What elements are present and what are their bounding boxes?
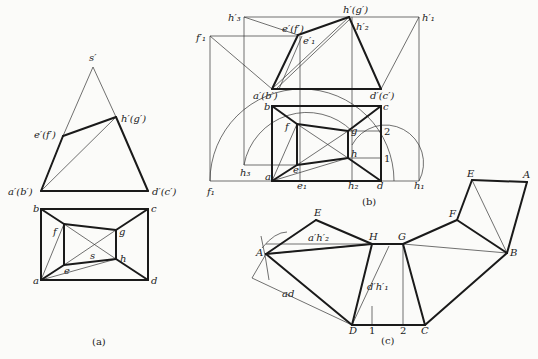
diagram-svg: s′h′(g′)e′(f′)a′(b′)d′(c′)bcfgshead(a) h… bbox=[0, 0, 538, 359]
figure-b-true-length-construction: h′₃h′(g′)h′₁f′₁e′(f′)e′₁h′₂a′(b′)d′(c′)b… bbox=[195, 4, 435, 207]
edge-line bbox=[41, 136, 63, 191]
construction-line bbox=[403, 244, 507, 253]
point-label: a bbox=[33, 275, 39, 286]
construction-line bbox=[210, 36, 272, 89]
descriptive-geometry-diagram: s′h′(g′)e′(f′)a′(b′)d′(c′)bcfgshead(a) h… bbox=[0, 0, 538, 359]
point-label: A bbox=[255, 247, 263, 258]
point-label: s′ bbox=[89, 52, 97, 63]
edge-line bbox=[425, 253, 507, 325]
point-label: d′(c′) bbox=[152, 186, 176, 197]
figure-caption: (a) bbox=[92, 336, 106, 347]
edge-line bbox=[63, 117, 116, 136]
point-label: g bbox=[119, 226, 125, 237]
point-label: a′(b′) bbox=[253, 90, 278, 101]
point-label: ad bbox=[282, 288, 294, 299]
height-mark-number: 2 bbox=[400, 325, 406, 336]
point-label: e bbox=[293, 164, 299, 175]
point-label: h′₂ bbox=[356, 21, 369, 32]
point-label: e′(f′) bbox=[282, 23, 304, 34]
point-label: a′h′₂ bbox=[308, 232, 329, 243]
height-mark-number: 2 bbox=[384, 126, 390, 137]
point-label: d bbox=[377, 180, 383, 191]
point-label: h′₁ bbox=[422, 12, 435, 23]
figure-caption: (b) bbox=[362, 196, 376, 207]
construction-line bbox=[381, 17, 419, 89]
edge-line bbox=[266, 244, 372, 254]
point-label: h′(g′) bbox=[121, 113, 146, 124]
point-label: F bbox=[448, 208, 457, 219]
point-label: d′(c′) bbox=[370, 90, 394, 101]
point-label: h′₃ bbox=[228, 12, 241, 23]
point-label: E bbox=[466, 168, 475, 179]
edge-line bbox=[403, 244, 425, 325]
construction-arc bbox=[262, 232, 287, 248]
figure-c-development-net: EHGFEABAa′h′₂add′h′₁DC12(c) bbox=[252, 168, 530, 346]
point-label: a bbox=[265, 171, 271, 182]
edge-line bbox=[298, 17, 349, 35]
edge-line bbox=[297, 158, 348, 165]
point-label: D bbox=[348, 325, 357, 336]
construction-line bbox=[252, 278, 352, 325]
edge-line bbox=[507, 182, 527, 253]
construction-line bbox=[63, 67, 93, 136]
edge-line bbox=[457, 220, 507, 253]
point-label: g bbox=[351, 125, 357, 136]
point-label: E bbox=[313, 207, 322, 218]
point-label: b bbox=[33, 203, 39, 214]
point-label: h bbox=[120, 253, 126, 264]
construction-line bbox=[93, 67, 116, 117]
edge-line bbox=[116, 117, 148, 191]
point-label: d′h′₁ bbox=[367, 281, 388, 292]
height-mark-number: 1 bbox=[369, 325, 375, 336]
point-label: f bbox=[284, 121, 291, 132]
point-label: f₁ bbox=[206, 186, 215, 197]
point-label: e₁ bbox=[297, 180, 307, 191]
point-label: s bbox=[90, 250, 95, 261]
construction-line bbox=[279, 36, 302, 89]
point-label: H bbox=[368, 231, 378, 242]
edge-line bbox=[472, 180, 527, 182]
point-label: h′(g′) bbox=[343, 4, 368, 15]
point-label: h₁ bbox=[414, 180, 424, 191]
point-label: h₂ bbox=[348, 180, 358, 191]
point-label: C bbox=[421, 325, 429, 336]
point-label: h₃ bbox=[240, 167, 250, 178]
point-label: A bbox=[522, 169, 530, 180]
point-label: G bbox=[398, 231, 406, 242]
point-label: c bbox=[151, 203, 157, 214]
figure-caption: (c) bbox=[381, 335, 395, 346]
figure-a-pyramid-frustum-projections: s′h′(g′)e′(f′)a′(b′)d′(c′)bcfgshead(a) bbox=[8, 52, 176, 347]
edge-line bbox=[297, 124, 348, 131]
point-label: c bbox=[383, 101, 389, 112]
construction-arc bbox=[261, 236, 269, 280]
point-label: h bbox=[351, 148, 357, 159]
construction-line bbox=[272, 158, 348, 181]
edge-line bbox=[457, 180, 472, 220]
point-label: f′₁ bbox=[195, 32, 206, 43]
point-label: B bbox=[509, 247, 517, 258]
point-label: b bbox=[264, 101, 270, 112]
point-label: e′(f′) bbox=[34, 129, 56, 140]
construction-arc bbox=[210, 89, 394, 181]
edge-line bbox=[266, 254, 352, 325]
point-label: f bbox=[52, 226, 59, 237]
point-label: d bbox=[151, 275, 157, 286]
point-label: a′(b′) bbox=[8, 186, 33, 197]
point-label: e′₁ bbox=[303, 35, 315, 46]
construction-line bbox=[41, 259, 116, 280]
point-label: e bbox=[64, 265, 70, 276]
height-mark-number: 1 bbox=[384, 153, 390, 164]
edge-line bbox=[403, 220, 457, 244]
edge-line bbox=[41, 209, 64, 224]
edge-line bbox=[348, 158, 381, 181]
